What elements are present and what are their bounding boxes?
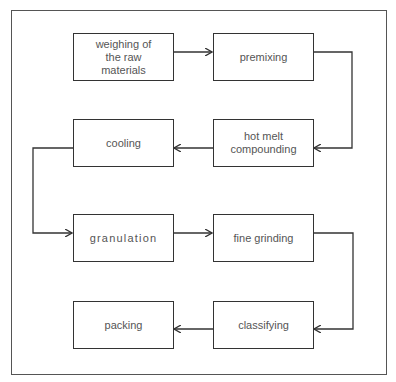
step-hot-melt-compounding: hot melt compounding: [213, 119, 314, 167]
step-weighing: weighing of the raw materials: [73, 33, 174, 81]
step-label: cooling: [106, 137, 141, 150]
step-label: premixing: [240, 51, 288, 64]
step-fine-grinding: fine grinding: [213, 214, 314, 262]
step-classifying: classifying: [213, 301, 314, 349]
step-label: fine grinding: [234, 232, 294, 245]
step-granulation: granulation: [73, 214, 174, 262]
step-cooling: cooling: [73, 119, 174, 167]
arrow-premixing-to-hot-melt: [313, 52, 352, 148]
connector-layer: [0, 0, 396, 382]
step-label: classifying: [238, 319, 289, 332]
arrow-fine-grinding-to-classifying: [313, 233, 353, 329]
arrow-cooling-to-granulation: [33, 148, 73, 233]
step-packing: packing: [73, 301, 174, 349]
step-label: weighing of the raw materials: [96, 38, 152, 77]
step-label: hot melt compounding: [230, 130, 296, 156]
step-premixing: premixing: [213, 33, 314, 81]
step-label: granulation: [90, 232, 158, 245]
step-label: packing: [105, 319, 143, 332]
